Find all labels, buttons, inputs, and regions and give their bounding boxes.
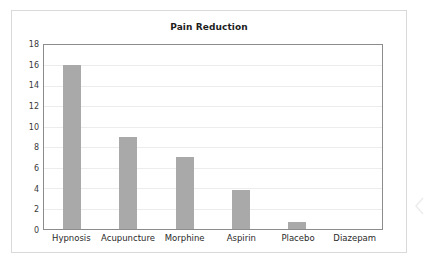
x-tick-label: Morphine	[156, 233, 213, 243]
bar[interactable]	[119, 137, 137, 229]
x-tick-label: Aspirin	[213, 233, 270, 243]
chart-title: Pain Reduction	[12, 22, 406, 32]
x-tick-label: Acupuncture	[100, 233, 157, 243]
y-tick-label: 4	[12, 184, 39, 193]
bar[interactable]	[63, 65, 81, 229]
bar-slot	[326, 45, 382, 229]
y-tick-label: 14	[12, 81, 39, 90]
bar-slot	[157, 45, 213, 229]
x-axis: HypnosisAcupunctureMorphineAspirinPlaceb…	[43, 233, 383, 243]
plot-area	[43, 44, 383, 230]
bar-slot	[44, 45, 100, 229]
y-tick-label: 2	[12, 205, 39, 214]
y-tick-label: 8	[12, 143, 39, 152]
bar-series	[44, 45, 382, 229]
bar[interactable]	[232, 190, 250, 229]
bar[interactable]	[288, 222, 306, 229]
bar-slot	[100, 45, 156, 229]
x-tick-label: Hypnosis	[43, 233, 100, 243]
bar-slot	[213, 45, 269, 229]
y-tick-label: 16	[12, 60, 39, 69]
chevron-left-icon	[414, 196, 426, 216]
y-tick-label: 10	[12, 122, 39, 131]
y-axis: 024681012141618	[12, 44, 39, 230]
bar-slot	[269, 45, 325, 229]
bar[interactable]	[176, 157, 194, 229]
y-tick-label: 6	[12, 164, 39, 173]
y-tick-label: 18	[12, 40, 39, 49]
x-tick-label: Placebo	[270, 233, 327, 243]
y-tick-label: 12	[12, 102, 39, 111]
x-tick-label: Diazepam	[326, 233, 383, 243]
chart-card: Pain Reduction 024681012141618 HypnosisA…	[11, 10, 407, 253]
y-tick-label: 0	[12, 226, 39, 235]
